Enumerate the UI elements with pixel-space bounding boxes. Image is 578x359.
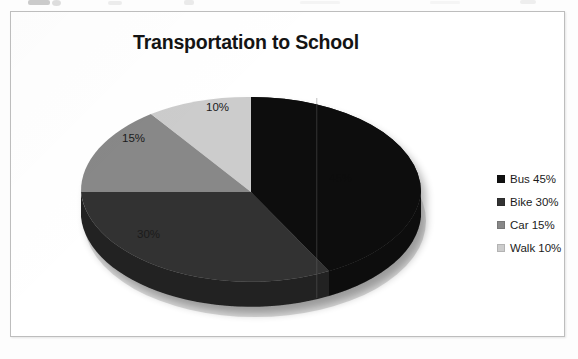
scan-streak	[316, 98, 317, 298]
legend-label-walk: Walk 10%	[510, 242, 561, 254]
scan-artifact	[184, 0, 194, 5]
scan-artifact	[520, 0, 536, 4]
pie-data-label-car: 15%	[122, 132, 145, 144]
legend-item-bus: Bus 45%	[497, 167, 577, 190]
legend-label-car: Car 15%	[510, 219, 555, 231]
legend-item-car: Car 15%	[497, 213, 577, 236]
pie-data-label-bike: 30%	[137, 228, 160, 240]
scan-artifact	[108, 1, 122, 5]
scan-artifact	[52, 0, 61, 6]
scan-artifact	[300, 1, 340, 4]
legend-item-walk: Walk 10%	[497, 236, 577, 259]
pie-chart-plot-area: 10% 15% 30% 45%	[11, 12, 481, 338]
scan-artifact	[430, 1, 460, 4]
chart-legend: Bus 45% Bike 30% Car 15% Walk 10%	[497, 167, 577, 259]
pie-chart-svg	[11, 12, 481, 338]
screenshot-root: Transportation to School	[0, 0, 578, 359]
legend-swatch-walk-icon	[497, 244, 505, 252]
legend-item-bike: Bike 30%	[497, 190, 577, 213]
chart-frame: Transportation to School	[10, 11, 565, 337]
scan-artifact	[28, 0, 50, 5]
legend-label-bike: Bike 30%	[510, 196, 559, 208]
legend-swatch-car-icon	[497, 221, 505, 229]
legend-swatch-bike-icon	[497, 198, 505, 206]
pie-data-label-walk: 10%	[206, 101, 229, 113]
pie-body	[81, 97, 421, 307]
legend-label-bus: Bus 45%	[510, 173, 556, 185]
pie-data-label-bus: 45%	[329, 172, 352, 184]
legend-swatch-bus-icon	[497, 175, 505, 183]
